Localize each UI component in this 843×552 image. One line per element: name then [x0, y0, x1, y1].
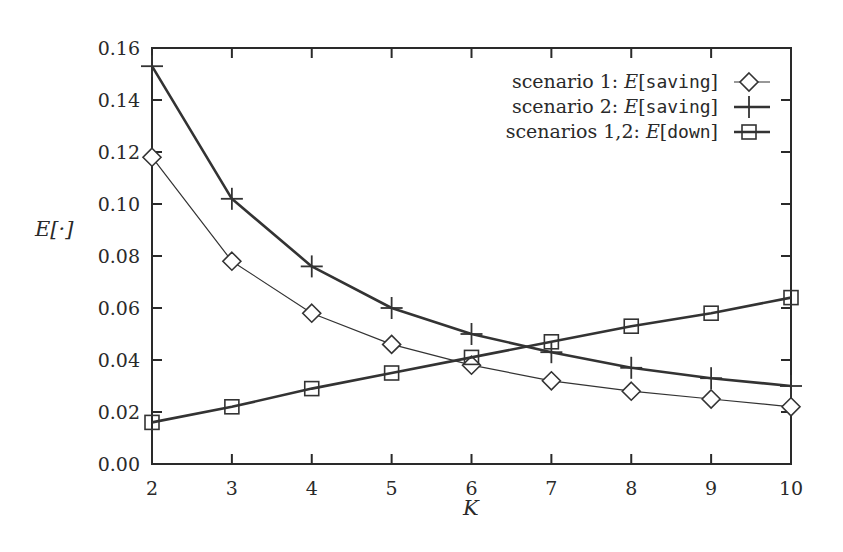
plus-marker	[620, 357, 642, 379]
line-chart: 0.000.020.040.060.080.100.120.140.16 234…	[0, 0, 843, 552]
legend-label: scenarios 1,2: E[down]	[506, 120, 718, 142]
diamond-marker	[303, 304, 321, 322]
diamond-marker	[622, 382, 640, 400]
x-tick-label: 10	[779, 477, 803, 499]
y-tick-label: 0.16	[98, 37, 140, 59]
x-tick-label: 5	[386, 477, 398, 499]
diamond-marker	[782, 398, 800, 416]
y-tick-label: 0.02	[98, 401, 140, 423]
legend-label: scenario 1: E[saving]	[512, 70, 718, 92]
plus-marker	[141, 55, 163, 77]
plus-marker	[700, 367, 722, 389]
diamond-marker	[542, 372, 560, 390]
x-tick-label: 9	[705, 477, 717, 499]
plus-marker	[780, 375, 802, 397]
plus-marker	[381, 297, 403, 319]
legend-item-3: scenarios 1,2: E[down]	[506, 120, 770, 142]
diamond-marker	[702, 390, 720, 408]
legend-item-2: scenario 2: E[saving]	[512, 95, 770, 118]
x-axis-title: K	[462, 496, 480, 520]
x-tick-label: 2	[146, 477, 158, 499]
y-tick-label: 0.00	[98, 453, 140, 475]
legend-item-1: scenario 1: E[saving]	[512, 70, 770, 92]
legend-diamond-icon	[740, 73, 758, 91]
x-tick-label: 8	[625, 477, 637, 499]
y-tick-label: 0.12	[98, 141, 140, 163]
y-tick-label: 0.06	[98, 297, 140, 319]
y-tick-label: 0.10	[98, 193, 140, 215]
diamond-marker	[383, 335, 401, 353]
x-tick-label: 3	[226, 477, 238, 499]
y-axis-title: E[·]	[34, 217, 74, 241]
x-tick-label: 7	[545, 477, 557, 499]
y-tick-label: 0.08	[98, 245, 140, 267]
diamond-marker	[223, 252, 241, 270]
legend-plus-icon	[738, 96, 760, 118]
legend-label: scenario 2: E[saving]	[512, 95, 718, 117]
plus-marker	[461, 323, 483, 345]
x-tick-label: 4	[306, 477, 318, 499]
diamond-marker	[143, 148, 161, 166]
legend: scenario 1: E[saving]scenario 2: E[savin…	[506, 70, 770, 142]
y-tick-label: 0.04	[98, 349, 140, 371]
y-tick-label: 0.14	[98, 89, 140, 111]
